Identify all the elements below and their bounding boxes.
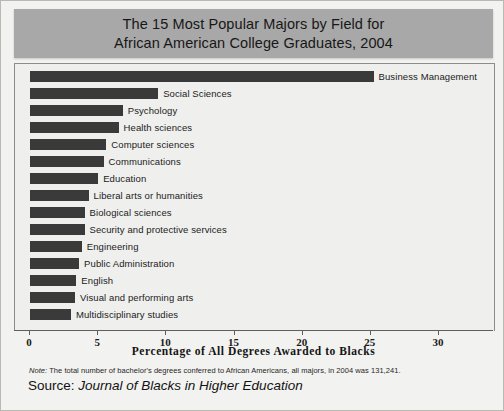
bar — [30, 309, 71, 320]
bar-row: Multidisciplinary studies — [30, 306, 492, 323]
bar-label: Communications — [109, 156, 181, 167]
bar — [30, 173, 98, 184]
bar — [30, 275, 76, 286]
note-text: The total number of bachelor's degrees c… — [47, 366, 400, 375]
bar — [30, 207, 85, 218]
chart-title-line-2: African American College Graduates, 2004 — [114, 34, 393, 53]
bar-label: Psychology — [128, 105, 178, 116]
bar-label: Education — [103, 173, 146, 184]
bar — [30, 258, 79, 269]
chart-title-line-1: The 15 Most Popular Majors by Field for — [123, 15, 385, 34]
x-axis-tick — [370, 330, 371, 335]
chart-title-banner: The 15 Most Popular Majors by Field for … — [14, 9, 493, 58]
x-axis-tick — [302, 330, 303, 335]
bar-row: Visual and performing arts — [30, 289, 492, 306]
x-axis-tick — [29, 330, 30, 335]
bar — [30, 88, 158, 99]
bar-row: Biological sciences — [30, 204, 492, 221]
x-axis-tick — [165, 330, 166, 335]
bar-label: Health sciences — [124, 122, 193, 133]
bar-label: Biological sciences — [90, 207, 172, 218]
bar-label: Engineering — [87, 241, 139, 252]
bar-label: Multidisciplinary studies — [76, 309, 178, 320]
x-axis-tick — [438, 330, 439, 335]
bar-row: Engineering — [30, 238, 492, 255]
bar — [30, 105, 123, 116]
bar-label: Social Sciences — [163, 88, 232, 99]
bar-series: Business ManagementSocial SciencesPsycho… — [30, 68, 492, 330]
chart-figure: The 15 Most Popular Majors by Field for … — [0, 0, 504, 411]
x-axis-title: Percentage of All Degrees Awarded to Bla… — [14, 345, 493, 357]
x-axis-tick — [234, 330, 235, 335]
bar-label: Liberal arts or humanities — [94, 190, 203, 201]
bar — [30, 241, 82, 252]
source-label: Source: — [28, 378, 78, 393]
bar — [30, 292, 75, 303]
bar-row: Liberal arts or humanities — [30, 187, 492, 204]
bar-row: Computer sciences — [30, 136, 492, 153]
source-journal: Journal of Blacks in Higher Education — [78, 378, 302, 393]
bar-row: Business Management — [30, 68, 492, 85]
bar-label: Security and protective services — [90, 224, 227, 235]
note-label: Note: — [29, 366, 47, 375]
bar-label: English — [81, 275, 113, 286]
plot-area: Business ManagementSocial SciencesPsycho… — [14, 63, 495, 331]
bar — [30, 156, 104, 167]
bar-row: Psychology — [30, 102, 492, 119]
bar-label: Visual and performing arts — [80, 292, 193, 303]
bar — [30, 224, 85, 235]
bar-row: English — [30, 272, 492, 289]
bar-row: Communications — [30, 153, 492, 170]
bar — [30, 190, 89, 201]
bar — [30, 71, 374, 82]
bar-row: Security and protective services — [30, 221, 492, 238]
x-axis-tick — [97, 330, 98, 335]
bar-label: Business Management — [379, 71, 478, 82]
bar-row: Public Administration — [30, 255, 492, 272]
bar-row: Education — [30, 170, 492, 187]
chart-source: Source: Journal of Blacks in Higher Educ… — [28, 378, 303, 393]
bar-label: Computer sciences — [111, 139, 194, 150]
x-axis-line — [14, 330, 493, 331]
bar-row: Social Sciences — [30, 85, 492, 102]
bar-row: Health sciences — [30, 119, 492, 136]
bar-label: Public Administration — [84, 258, 174, 269]
bar — [30, 139, 106, 150]
chart-note: Note: The total number of bachelor's deg… — [29, 366, 401, 375]
bar — [30, 122, 119, 133]
